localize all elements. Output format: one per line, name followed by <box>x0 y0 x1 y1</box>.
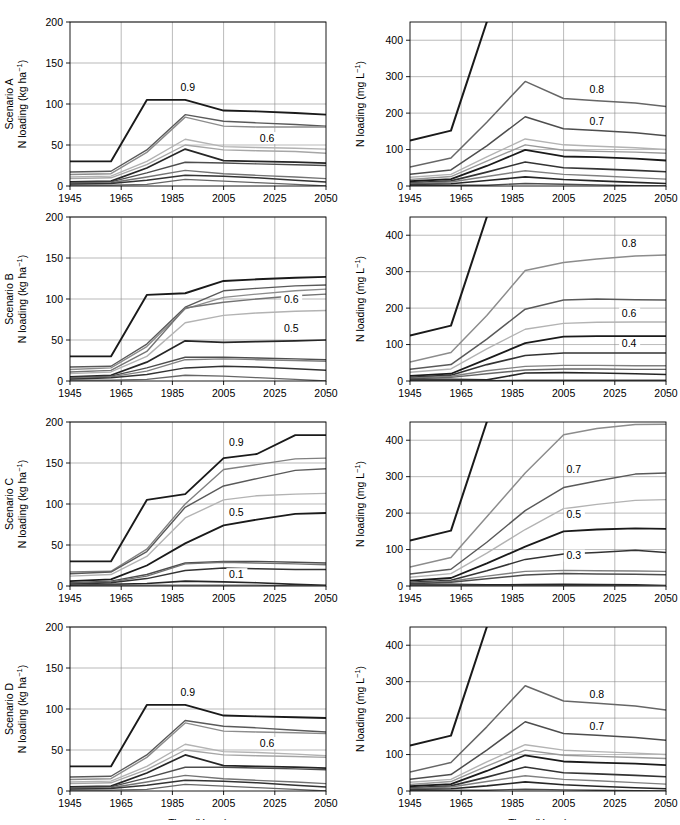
data-lines <box>410 10 666 186</box>
series-line <box>410 686 666 772</box>
data-lines <box>410 205 666 381</box>
x-tick-label: 1945 <box>398 797 422 809</box>
y-tick-label: 400 <box>385 639 403 651</box>
y-axis-title: Scenario AN loading (kg ha−1) <box>3 60 28 149</box>
x-tick-label: 2005 <box>552 797 576 809</box>
y-tick-label: 50 <box>51 744 63 756</box>
contour-label: 0.4 <box>622 337 637 349</box>
x-tick-label: 1945 <box>398 387 422 399</box>
x-tick-label: 2025 <box>603 387 627 399</box>
gridlines <box>410 22 666 186</box>
y-axis-scenario-label: Scenario A <box>3 79 15 130</box>
contour-label: 0.9 <box>229 436 244 448</box>
series-line <box>70 705 326 767</box>
y-tick-label: 100 <box>385 543 403 555</box>
series-line <box>410 500 666 578</box>
y-tick-label: 100 <box>45 703 63 715</box>
series-line <box>70 277 326 357</box>
y-tick-label: 0 <box>397 180 403 192</box>
y-tick-label: 150 <box>45 57 63 69</box>
y-tick-label: 100 <box>45 498 63 510</box>
y-axis-scenario-label: Scenario C <box>3 478 15 530</box>
contour-label: 0.5 <box>567 508 582 520</box>
y-tick-label: 50 <box>51 539 63 551</box>
series-line <box>410 81 666 167</box>
y-axis-title: N loading (mg L−1) <box>353 461 367 547</box>
y-tick-label: 150 <box>45 457 63 469</box>
x-axis: 194519651985200520252050 <box>398 586 678 604</box>
y-tick-label: 0 <box>57 375 63 387</box>
series-line <box>70 435 326 561</box>
y-axis-title: Scenario BN loading (kg ha−1) <box>3 255 28 344</box>
y-axis-unit-label: N loading (mg L−1) <box>353 61 367 147</box>
plot-frame <box>410 627 666 791</box>
panel-a-right: 0100200300400194519651985200520252050N l… <box>340 10 680 215</box>
contour-label: 0.8 <box>590 688 605 700</box>
contour-label: 0.3 <box>567 549 582 561</box>
x-tick-label: 2050 <box>654 387 678 399</box>
y-tick-label: 200 <box>45 16 63 28</box>
contour-annotations: 0.70.50.3 <box>564 463 585 561</box>
x-tick-label: 2050 <box>654 797 678 809</box>
y-axis-unit-label: N loading (kg ha−1) <box>15 255 29 344</box>
y-axis-title: N loading (mg L−1) <box>353 666 367 752</box>
x-tick-label: 1965 <box>110 387 134 399</box>
x-tick-label: 1985 <box>161 592 185 604</box>
y-tick-label: 100 <box>45 293 63 305</box>
series-line <box>410 528 666 580</box>
x-tick-label: 2050 <box>654 192 678 204</box>
x-axis: 194519651985200520252050 <box>58 586 338 604</box>
y-tick-label: 0 <box>397 785 403 797</box>
contour-label: 0.8 <box>622 237 637 249</box>
series-line <box>410 424 666 567</box>
contour-label: 0.8 <box>590 83 605 95</box>
x-axis: 194519651985200520252050 <box>398 381 678 399</box>
x-tick-label: 2005 <box>212 192 236 204</box>
contour-label: 0.7 <box>590 115 605 127</box>
contour-label: 0.6 <box>260 132 275 144</box>
y-axis: 0100200300400 <box>385 434 410 592</box>
x-tick-label: 1985 <box>161 797 185 809</box>
y-axis: 0100200300400 <box>385 639 410 797</box>
y-tick-label: 0 <box>397 580 403 592</box>
y-axis: 050100150200 <box>45 16 70 192</box>
y-axis: 050100150200 <box>45 416 70 592</box>
x-tick-label: 2050 <box>314 797 338 809</box>
x-tick-label: 1965 <box>450 592 474 604</box>
x-tick-label: 2025 <box>603 192 627 204</box>
y-tick-label: 200 <box>385 302 403 314</box>
x-tick-label: 2025 <box>603 592 627 604</box>
gridlines <box>410 627 666 791</box>
x-tick-label: 1945 <box>58 592 82 604</box>
x-tick-label: 1965 <box>110 192 134 204</box>
figure-multi-panel-line-charts: 050100150200194519651985200520252050Scen… <box>0 0 680 825</box>
x-tick-label: 1965 <box>110 592 134 604</box>
y-axis: 0100200300400 <box>385 34 410 192</box>
x-tick-label: 2025 <box>263 592 287 604</box>
y-tick-label: 0 <box>57 580 63 592</box>
contour-annotations: 0.80.60.4 <box>619 237 640 350</box>
y-tick-label: 0 <box>397 375 403 387</box>
panel-b-right: 0100200300400194519651985200520252050N l… <box>340 205 680 410</box>
x-tick-label: 1985 <box>501 192 525 204</box>
y-axis: 050100150200 <box>45 621 70 797</box>
series-line <box>70 117 326 174</box>
contour-label: 0.7 <box>567 463 582 475</box>
y-axis-title: Scenario CN loading (kg ha−1) <box>3 460 28 549</box>
series-line <box>70 469 326 574</box>
y-axis: 050100150200 <box>45 211 70 387</box>
y-tick-label: 300 <box>385 265 403 277</box>
panel-a-left: 050100150200194519651985200520252050Scen… <box>0 10 340 215</box>
y-tick-label: 400 <box>385 434 403 446</box>
x-axis-title: Time (Years) <box>168 817 227 820</box>
contour-annotations: 0.80.7 <box>587 83 608 127</box>
data-lines <box>70 100 326 186</box>
x-tick-label: 1945 <box>398 192 422 204</box>
y-axis-unit-label: N loading (mg L−1) <box>353 461 367 547</box>
contour-label: 0.5 <box>284 322 299 334</box>
y-tick-label: 300 <box>385 675 403 687</box>
x-axis: 194519651985200520252050 <box>398 186 678 204</box>
data-lines <box>410 615 666 791</box>
contour-label: 0.1 <box>229 568 244 580</box>
data-lines <box>70 435 326 586</box>
